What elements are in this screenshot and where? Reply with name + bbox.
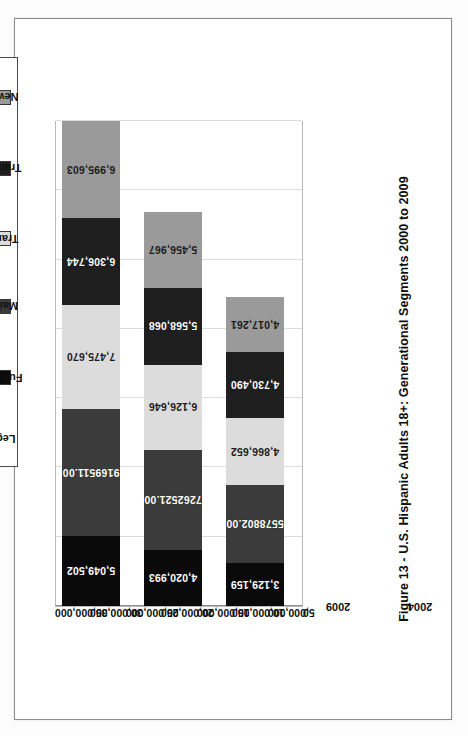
bar-segment: 6,306,744 <box>62 218 120 305</box>
bar-value-label: 4,017,261 <box>231 319 280 331</box>
scanned-page-frame: Legend Full AdaptersMaintainersTransplan… <box>14 18 452 720</box>
bar-segment: 4,020,993 <box>144 550 202 606</box>
bar-value-label: 5,568,068 <box>149 320 198 332</box>
bar-segment: 5578802.00 <box>226 485 284 562</box>
bar-segment: 5,049,502 <box>62 536 120 606</box>
bar-value-label: 4,866,652 <box>231 446 280 458</box>
legend-item: Transplants <box>0 208 11 270</box>
legend-item: Full Adapters <box>0 343 11 413</box>
figure-page: { "page": { "caption": "Figure 13 - U.S.… <box>0 0 468 736</box>
legend-item-label: Maintainers <box>0 300 18 313</box>
bar-value-label: 6,995,603 <box>67 164 116 176</box>
bar-value-label: 6,306,744 <box>67 256 116 268</box>
bar-segment: 3,129,159 <box>226 563 284 606</box>
bar-segment: 6,126,646 <box>144 365 202 450</box>
category-axis-label: 2009 <box>316 601 360 613</box>
bar-segment: 7,475,670 <box>62 305 120 409</box>
figure-stage: Legend Full AdaptersMaintainersTransplan… <box>37 39 429 699</box>
bar-value-label: 9169511.00 <box>63 467 120 479</box>
legend-item-label: Transplants <box>0 232 18 245</box>
legend-item-label: Full Adapters <box>0 371 22 384</box>
legend-item: Maintainers <box>0 276 11 337</box>
bar-value-label: 7262521.00 <box>144 494 201 506</box>
bar-group: 5,049,5029169511.007,475,6706,306,7446,9… <box>62 121 120 606</box>
legend-item: Transitionals <box>0 134 11 202</box>
bar-segment: 7262521.00 <box>144 450 202 551</box>
bar-segment: 9169511.00 <box>62 409 120 536</box>
bar-group: 4,020,9937262521.006,126,6465,568,0685,4… <box>144 121 202 606</box>
bar-group: 3,129,1595578802.004,866,6524,730,4904,0… <box>226 121 284 606</box>
bars-area: 5,049,5029169511.007,475,6706,306,7446,9… <box>56 121 302 606</box>
bar-segment: 6,995,603 <box>62 121 120 218</box>
legend-item: Newcomers <box>0 66 11 128</box>
figure-caption: Figure 13 - U.S. Hispanic Adults 18+: Ge… <box>397 99 411 699</box>
legend-title: Legend <box>0 433 16 445</box>
value-axis: 35,000,00030,000,00025,000,00020,000,000… <box>55 607 303 699</box>
chart: Legend Full AdaptersMaintainersTransplan… <box>45 99 375 699</box>
bar-segment: 4,730,490 <box>226 352 284 418</box>
bar-value-label: 4,730,490 <box>231 379 280 391</box>
category-axis: 200920042000 <box>305 121 331 607</box>
value-axis-tick-label: 0 <box>303 607 309 619</box>
bar-segment: 5,568,068 <box>144 288 202 365</box>
legend-item-label: Newcomers <box>0 91 18 104</box>
bar-segment: 4,866,652 <box>226 418 284 485</box>
legend-items: Full AdaptersMaintainersTransplantsTrans… <box>0 66 11 412</box>
bar-value-label: 4,020,993 <box>149 572 198 584</box>
legend-item-label: Transitionals <box>0 162 21 175</box>
bar-value-label: 5578802.00 <box>226 518 283 530</box>
bar-value-label: 3,129,159 <box>231 578 280 590</box>
chart-legend: Legend Full AdaptersMaintainersTransplan… <box>0 57 18 467</box>
bar-segment: 4,017,261 <box>226 297 284 353</box>
plot-area: 5,049,5029169511.007,475,6706,306,7446,9… <box>55 121 303 607</box>
bar-value-label: 6,126,646 <box>149 401 198 413</box>
bar-value-label: 7,475,670 <box>67 351 116 363</box>
bar-segment: 5,456,967 <box>144 212 202 288</box>
bar-value-label: 5,456,967 <box>149 244 198 256</box>
bar-value-label: 5,049,502 <box>67 565 116 577</box>
